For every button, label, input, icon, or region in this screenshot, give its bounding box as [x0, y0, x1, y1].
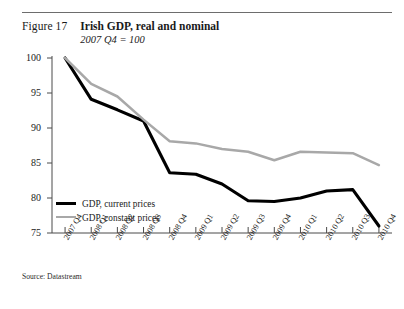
figure-subtitle: 2007 Q4 = 100 — [80, 33, 219, 46]
source-note: Source: Datastream — [22, 272, 82, 281]
legend-item-constant: GDP, constant prices — [56, 208, 160, 222]
legend-swatch-constant-icon — [56, 216, 76, 218]
y-axis-tick-label: 90 — [15, 123, 41, 133]
y-axis-tick-label: 75 — [15, 228, 41, 238]
series-line — [65, 58, 379, 165]
y-axis-tick-label: 80 — [15, 193, 41, 203]
y-axis-tick-label: 95 — [15, 88, 41, 98]
figure-header: Figure 17 Irish GDP, real and nominal 20… — [22, 20, 394, 46]
chart-area: 7580859095100 2007 Q42008 Q12008 Q22008 … — [0, 50, 404, 245]
y-axis-ticks — [47, 58, 52, 233]
figure-page: Figure 17 Irish GDP, real and nominal 20… — [0, 0, 404, 309]
header-divider — [22, 12, 392, 13]
chart-legend: GDP, current prices GDP, constant prices — [56, 194, 160, 222]
legend-swatch-current-icon — [56, 202, 76, 205]
y-axis-tick-label: 100 — [15, 53, 41, 63]
legend-item-current: GDP, current prices — [56, 194, 160, 208]
figure-title-group: Irish GDP, real and nominal 2007 Q4 = 10… — [80, 20, 219, 46]
y-axis-tick-label: 85 — [15, 158, 41, 168]
figure-number: Figure 17 — [22, 20, 67, 32]
figure-title: Irish GDP, real and nominal — [80, 20, 219, 33]
legend-label-constant: GDP, constant prices — [82, 213, 160, 223]
